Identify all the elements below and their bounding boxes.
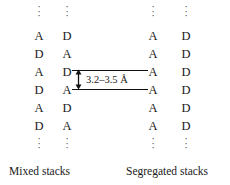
ellipsis-bottom-mixed-1: · · · [28, 136, 50, 150]
stack-letter: A [142, 120, 164, 132]
stack-letter: A [142, 48, 164, 60]
spacing-upper-rule [72, 70, 148, 71]
ellipsis-bottom-segregated-2: · · · [175, 136, 197, 150]
stack-letter: D [175, 48, 197, 60]
segregated-stack-column-1: · · · A A A A A A · · · [142, 0, 164, 160]
stack-letter: D [175, 84, 197, 96]
ellipsis-dot: · [142, 13, 164, 18]
stack-letter: D [175, 66, 197, 78]
caption-segregated-stacks: Segregated stacks [126, 165, 208, 178]
stack-letter: A [142, 102, 164, 114]
stack-letter: D [56, 102, 78, 114]
stack-letter: D [175, 30, 197, 42]
ellipsis-top-mixed-2: · · · [56, 4, 78, 18]
stack-letter: A [142, 84, 164, 96]
ellipsis-dot: · [28, 145, 50, 150]
ellipsis-top-segregated-2: · · · [175, 4, 197, 18]
ellipsis-bottom-mixed-2: · · · [56, 136, 78, 150]
stack-letter: D [175, 120, 197, 132]
stack-letter: D [28, 48, 50, 60]
ellipsis-top-segregated-1: · · · [142, 4, 164, 18]
stack-letter: A [28, 102, 50, 114]
segregated-stack-column-2: · · · D D D D D D · · · [175, 0, 197, 160]
stack-letter: A [142, 30, 164, 42]
ellipsis-bottom-segregated-1: · · · [142, 136, 164, 150]
stack-letter: A [56, 48, 78, 60]
stack-letter: A [56, 120, 78, 132]
stack-letter: D [175, 102, 197, 114]
stack-letter: D [28, 120, 50, 132]
ellipsis-dot: · [142, 145, 164, 150]
ellipsis-dot: · [175, 145, 197, 150]
caption-mixed-stacks: Mixed stacks [9, 165, 70, 178]
ellipsis-top-mixed-1: · · · [28, 4, 50, 18]
mixed-stack-column-1: · · · A D A D A D · · · [28, 0, 50, 160]
ellipsis-dot: · [56, 13, 78, 18]
ellipsis-dot: · [175, 13, 197, 18]
stack-letter: A [28, 66, 50, 78]
ellipsis-dot: · [28, 13, 50, 18]
stack-letter: A [28, 30, 50, 42]
interplanar-distance-label: 3.2–3.5 Å [86, 74, 128, 85]
stack-letter: D [56, 30, 78, 42]
stack-letter: A [142, 66, 164, 78]
ellipsis-dot: · [56, 145, 78, 150]
spacing-double-arrow [74, 69, 83, 94]
stack-letter: D [28, 84, 50, 96]
spacing-lower-rule [72, 89, 148, 90]
donor-acceptor-stacking-diagram: · · · A D A D A D · · · · · · D A D A D … [0, 0, 230, 185]
